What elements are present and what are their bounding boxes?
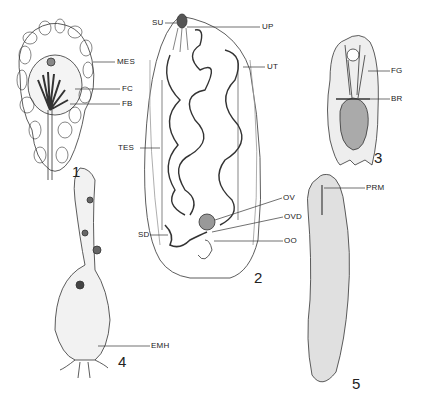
panel-number-2: 2 xyxy=(254,270,262,285)
label-tes: TES xyxy=(118,144,134,152)
panel-number-3: 3 xyxy=(374,150,382,165)
label-fb: FB xyxy=(122,100,133,108)
panel-5-drawing xyxy=(307,174,349,381)
label-emh: EMH xyxy=(151,342,169,350)
panel-2-drawing xyxy=(145,14,261,278)
label-ov: OV xyxy=(283,194,295,202)
label-ovd: OVD xyxy=(284,213,302,221)
label-su: SU xyxy=(152,19,164,27)
label-br: BR xyxy=(391,95,403,103)
label-mes: MES xyxy=(117,58,135,66)
label-fg: FG xyxy=(391,67,403,75)
label-fc: FC xyxy=(122,85,133,93)
panel-1-drawing xyxy=(17,19,94,180)
panel-3-drawing xyxy=(328,35,379,165)
label-oo: OO xyxy=(284,237,297,245)
label-up: UP xyxy=(262,23,274,31)
panel-number-4: 4 xyxy=(118,354,126,369)
label-sd: SD xyxy=(138,231,150,239)
label-ut: UT xyxy=(267,63,278,71)
panel-4-drawing xyxy=(55,168,110,378)
panel-number-1: 1 xyxy=(72,164,80,179)
label-prm: PRM xyxy=(366,184,384,192)
figure-drawings xyxy=(0,0,432,400)
panel-number-5: 5 xyxy=(352,376,360,391)
